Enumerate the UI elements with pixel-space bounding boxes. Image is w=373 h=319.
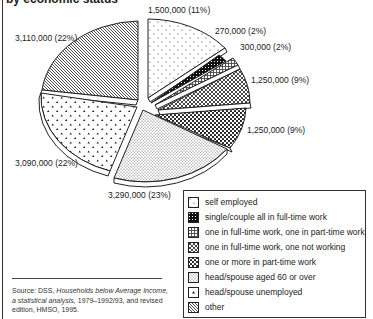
legend-label: other — [205, 302, 224, 312]
label-aged-60-over: 3,290,000 (23%) — [108, 190, 171, 200]
fine-grid-swatch-icon — [188, 227, 199, 238]
legend-item: head/spouse unemployed — [188, 286, 302, 298]
legend-label: single/couple all in full-time work — [205, 212, 327, 222]
legend-label: one in full-time work, one not working — [205, 242, 345, 252]
legend-item: self employed — [188, 196, 257, 208]
source-note: Source: DSS, Households below Average In… — [12, 286, 172, 315]
legend-label: head/spouse aged 60 or over — [205, 272, 316, 282]
label-single-couple-ft: 270,000 (2%) — [215, 26, 266, 36]
label-self-employed: 1,500,000 (11%) — [148, 5, 210, 15]
legend-item: one in full-time work, one not working — [188, 241, 345, 253]
legend-label: head/spouse unemployed — [205, 287, 302, 297]
label-other: 3,110,000 (22%) — [15, 33, 77, 43]
legend-item: single/couple all in full-time work — [188, 211, 327, 223]
source-divider — [12, 278, 162, 279]
legend: self employed single/couple all in full-… — [183, 190, 366, 318]
legend-label: self employed — [205, 197, 257, 207]
triangles-swatch-icon — [188, 287, 199, 298]
fine-dots-swatch-icon — [188, 272, 199, 283]
crosshatch-swatch-icon — [188, 242, 199, 253]
label-part-time: 1,250,000 (9%) — [247, 125, 305, 135]
label-unemployed: 3,090,000 (22%) — [15, 158, 78, 168]
legend-item: other — [188, 301, 224, 313]
label-ft-not-working: 1,250,000 (9%) — [251, 75, 309, 85]
legend-label: one or more in part-time work — [205, 257, 316, 267]
sparse-dots-swatch-icon — [188, 197, 199, 208]
dark-grid-swatch-icon — [188, 212, 199, 223]
diagonal-hatch-swatch-icon — [188, 302, 199, 313]
label-ft-pt: 300,000 (2%) — [240, 42, 291, 52]
bold-dots-swatch-icon — [188, 257, 199, 268]
source-prefix: Source: DSS, — [12, 287, 56, 294]
legend-label: one in full-time work, one in part-time … — [205, 227, 365, 237]
legend-item: one in full-time work, one in part-time … — [188, 226, 365, 238]
legend-item: one or more in part-time work — [188, 256, 316, 268]
legend-item: head/spouse aged 60 or over — [188, 271, 316, 283]
